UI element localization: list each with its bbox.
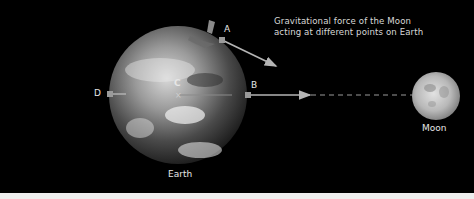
moon bbox=[412, 72, 460, 120]
earth-label: Earth bbox=[168, 170, 192, 179]
title-line-1: Gravitational force of the Moon bbox=[274, 16, 423, 27]
marker-c-cross: × bbox=[175, 91, 182, 100]
diagram-canvas: × Gravitational force of the Moon acting… bbox=[0, 0, 474, 193]
bottom-border bbox=[0, 193, 474, 199]
title-line-2: acting at different points on Earth bbox=[274, 27, 423, 38]
diagram-title: Gravitational force of the Moon acting a… bbox=[274, 16, 423, 38]
point-label-c: C bbox=[174, 79, 181, 88]
marker-b bbox=[245, 92, 251, 98]
marker-a bbox=[219, 37, 225, 43]
marker-d bbox=[107, 91, 113, 97]
point-label-b: B bbox=[251, 81, 257, 90]
moon-label: Moon bbox=[422, 124, 446, 133]
point-label-d: D bbox=[94, 89, 101, 98]
point-label-a: A bbox=[224, 25, 230, 34]
